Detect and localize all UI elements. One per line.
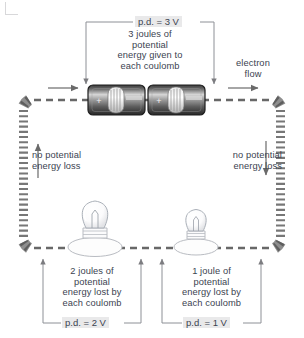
right-no-loss-label: no potential energy loss (196, 150, 282, 171)
lamp2-pd-label: p.d. = 1 V (183, 317, 230, 328)
circuit-diagram-figure: + + (0, 0, 304, 338)
supply-pd-label: p.d. = 3 V (135, 16, 182, 27)
lamp1-energy-label: 2 joules of potential energy lost by eac… (43, 266, 141, 308)
electron-flow-label: electron flow (222, 58, 284, 79)
left-no-loss-label: no potential energy loss (32, 150, 118, 171)
lamp1-pd-label: p.d. = 2 V (62, 317, 109, 328)
supply-energy-label: 3 joules of potential energy given to ea… (86, 29, 214, 71)
lamp2-energy-label: 1 joule of potential energy lost by each… (162, 266, 261, 308)
